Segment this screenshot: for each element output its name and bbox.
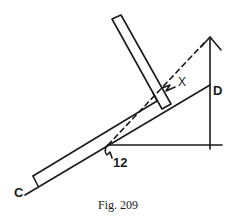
angle-12-marker — [105, 145, 112, 158]
board-end-cap — [33, 176, 38, 186]
diagram-drawing — [0, 0, 236, 217]
figure-canvas: X D 12 C Fig. 209 — [0, 0, 236, 217]
leaning-plank — [112, 15, 171, 109]
label-12: 12 — [113, 156, 127, 169]
label-d: D — [213, 84, 222, 97]
label-x: X — [178, 76, 186, 88]
dashed-line — [108, 42, 205, 145]
incline-line — [25, 85, 210, 195]
figure-caption: Fig. 209 — [0, 198, 236, 213]
